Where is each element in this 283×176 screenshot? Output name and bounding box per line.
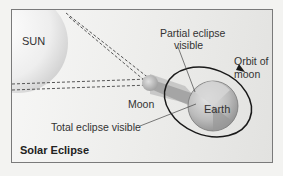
orbit-label-line1: Orbit of (234, 56, 268, 67)
diagram-title: Solar Eclipse (20, 144, 89, 156)
orbit-label-line2: moon (234, 69, 260, 80)
sun-label: SUN (22, 36, 45, 47)
total-eclipse-label: Total eclipse visible (51, 122, 141, 133)
partial-eclipse-label-line1: Partial eclipse (160, 28, 225, 39)
moon-shape (142, 75, 158, 91)
moon-label: Moon (128, 99, 154, 110)
partial-eclipse-label-line2: visible (174, 40, 203, 51)
earth-label: Earth (204, 104, 230, 115)
